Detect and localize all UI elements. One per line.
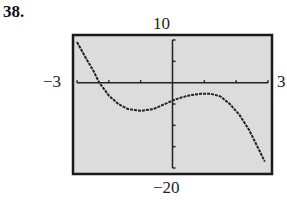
graph-window xyxy=(0,0,287,204)
